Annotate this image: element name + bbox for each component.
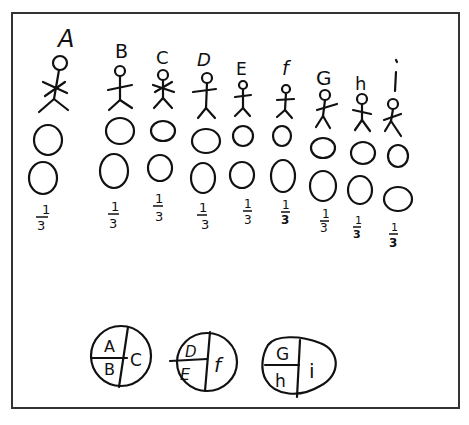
fraction-denominator: 3 (155, 209, 163, 224)
circle-icon (388, 145, 408, 167)
group-label-bottom-left: h (275, 371, 286, 391)
figure-label: D (197, 49, 211, 70)
fraction-numerator: 1 (322, 207, 330, 221)
circle-icon (348, 176, 372, 204)
circle-icon (273, 126, 291, 146)
fraction-denominator: 3 (389, 236, 397, 250)
circle-icon (100, 154, 128, 188)
figure-label: C (156, 47, 169, 68)
fraction-numerator: 1 (42, 202, 50, 217)
group-ghi: G h i (262, 337, 335, 397)
fraction-denominator: 3 (281, 213, 289, 227)
circle-icon (106, 118, 134, 144)
fraction-denominator: 3 (201, 217, 209, 232)
figure-i: i 1 3 (384, 60, 412, 250)
group-label-right: C (130, 350, 142, 370)
stick-person-icon (235, 81, 251, 116)
circle-icon (311, 138, 335, 158)
group-label-top-left: D (185, 343, 197, 361)
circle-icon (230, 162, 254, 188)
group-label-right: i (309, 359, 315, 383)
fraction-numerator: 1 (111, 199, 119, 214)
figure-label: B (115, 40, 128, 62)
figure-a: A 1 3 (29, 25, 74, 233)
circle-icon (34, 125, 62, 155)
circle-icon (148, 155, 172, 181)
circle-icon (384, 187, 412, 211)
fraction-denominator: 3 (244, 213, 252, 227)
figure-h: h 1 3 (348, 73, 375, 241)
figure-d: D 1 3 (191, 49, 220, 232)
figure-label: f (282, 57, 292, 79)
circle-icon (151, 121, 175, 141)
fraction-denominator: 3 (37, 218, 45, 233)
circle-icon (271, 160, 295, 192)
stick-person-icon (39, 56, 68, 112)
figure-label: G (316, 66, 332, 90)
stick-person-icon (353, 94, 371, 131)
fraction-numerator: 1 (391, 221, 398, 234)
group-label-bottom-left: E (180, 365, 191, 384)
stick-person-icon (193, 73, 216, 118)
fraction-numerator: 1 (155, 191, 163, 206)
fraction-denominator: 3 (320, 221, 328, 235)
hand-drawn-diagram: A 1 3 B 1 3 C (0, 0, 469, 425)
stick-person-icon (384, 99, 401, 136)
group-label-top-left: G (276, 344, 289, 364)
figure-g: G 1 3 (310, 66, 337, 235)
stick-person-icon (277, 85, 294, 118)
circle-icon (192, 129, 220, 153)
stick-person-icon (316, 90, 337, 128)
fraction-numerator: 1 (282, 198, 290, 212)
figure-label: A (56, 25, 74, 53)
circle-icon (310, 171, 336, 201)
figure-label: h (355, 73, 366, 94)
figure-b: B 1 3 (100, 40, 134, 231)
figure-f: f 1 3 (271, 57, 295, 227)
i-stroke (395, 72, 396, 91)
fraction-denominator: 3 (353, 228, 361, 241)
figure-label: E (236, 59, 247, 79)
circle-icon (29, 162, 57, 194)
stick-person-icon (108, 66, 132, 110)
circle-icon (233, 126, 253, 146)
fraction-numerator: 1 (244, 197, 252, 211)
circle-icon (191, 163, 215, 193)
group-label-bottom-left: B (104, 360, 115, 379)
circle-icon (351, 142, 375, 164)
stick-person-icon (153, 70, 174, 108)
i-dot (396, 60, 397, 62)
figure-e: E 1 3 (230, 59, 254, 227)
fraction-numerator: 1 (199, 200, 207, 215)
group-label-right: f (214, 353, 224, 377)
group-label-top-left: A (104, 337, 115, 356)
group-abc: A B C (91, 326, 151, 387)
fraction-denominator: 3 (109, 216, 117, 231)
figure-c: C 1 3 (148, 47, 175, 224)
fraction-numerator: 1 (355, 214, 362, 227)
group-def: D E f (170, 332, 237, 391)
